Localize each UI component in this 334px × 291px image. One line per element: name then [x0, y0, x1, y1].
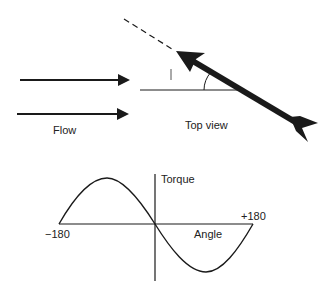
x-min-tick-label: −180	[45, 228, 70, 240]
diagram-canvas: Flow Top view Torque Angle −180 +180	[0, 0, 334, 291]
flow-label: Flow	[53, 124, 76, 136]
x-max-tick-label: +180	[241, 210, 266, 222]
x-axis-label: Angle	[194, 228, 222, 240]
flow-arrows	[17, 80, 128, 114]
top-view-label: Top view	[185, 119, 228, 131]
vane-shaft	[186, 57, 302, 126]
torque-chart: Torque Angle −180 +180	[45, 173, 266, 281]
y-axis-label: Torque	[161, 173, 195, 185]
vane-tail-fletching	[290, 116, 318, 142]
torque-curve	[59, 178, 253, 272]
dashed-extension-line	[124, 19, 172, 49]
